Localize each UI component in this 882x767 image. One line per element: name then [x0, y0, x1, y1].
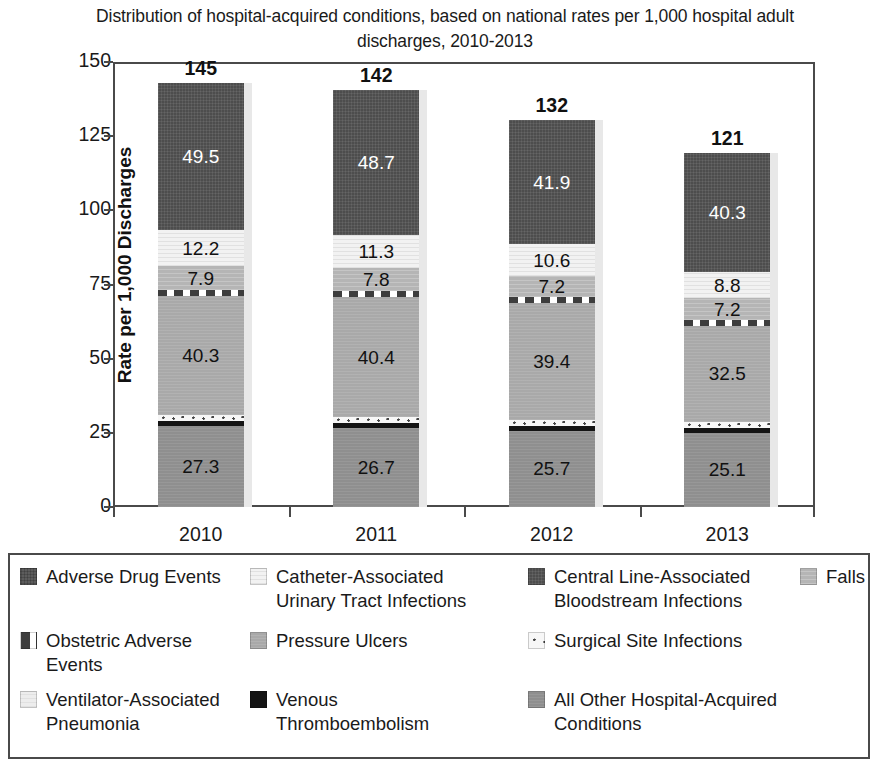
segment-value-label: 39.4 — [533, 352, 570, 371]
bar-segment-falls[interactable]: 7.2 — [684, 298, 770, 319]
bar-segment-obs[interactable] — [509, 297, 595, 303]
bar-segment-ssi[interactable] — [684, 422, 770, 428]
x-tick-label: 2010 — [141, 523, 261, 546]
bar-segment-other[interactable]: 25.7 — [509, 431, 595, 507]
y-tick-mark — [104, 61, 113, 63]
segment-value-label: 8.8 — [714, 276, 740, 295]
segment-value-label: 7.2 — [539, 277, 565, 296]
bar-segment-obs[interactable] — [158, 290, 244, 296]
segment-value-label: 12.2 — [182, 239, 219, 258]
legend-label: Catheter-Associated Urinary Tract Infect… — [276, 565, 466, 613]
y-tick-label: 75 — [47, 272, 111, 295]
bar-segment-pu[interactable]: 39.4 — [509, 303, 595, 420]
segment-value-label: 26.7 — [358, 458, 395, 477]
y-tick-label: 150 — [47, 49, 111, 72]
bar-segment-falls[interactable]: 7.8 — [333, 268, 419, 291]
bar-segment-falls[interactable]: 7.2 — [509, 276, 595, 297]
legend-swatch-vap-icon — [20, 691, 37, 708]
legend-label: Pressure Ulcers — [276, 629, 408, 653]
segment-value-label: 25.1 — [709, 460, 746, 479]
legend-label: Falls — [826, 565, 865, 589]
bar-segment-pu[interactable]: 40.4 — [333, 297, 419, 417]
bar-segment-ssi[interactable] — [333, 417, 419, 423]
legend-item-ade[interactable]: Adverse Drug Events — [20, 565, 221, 589]
bar-segment-pu[interactable]: 40.3 — [158, 296, 244, 416]
legend-item-obs[interactable]: Obstetric Adverse Events — [20, 629, 192, 677]
bar-segment-ssi[interactable] — [509, 420, 595, 426]
bar-segment-other[interactable]: 27.3 — [158, 426, 244, 507]
bar-segment-obs[interactable] — [333, 291, 419, 297]
bar-segment-ssi[interactable] — [158, 415, 244, 421]
bar-segment-cauti[interactable]: 10.6 — [509, 244, 595, 275]
bar-total-label: 121 — [684, 127, 770, 150]
bar-segment-cauti[interactable]: 12.2 — [158, 230, 244, 266]
y-tick-label: 100 — [47, 197, 111, 220]
y-axis-title: Rate per 1,000 Discharges — [114, 85, 136, 445]
segment-value-label: 11.3 — [358, 242, 394, 261]
y-tick-mark — [104, 358, 113, 360]
segment-value-label: 27.3 — [182, 457, 219, 476]
plot-area: Rate per 1,000 Discharges 02550751001251… — [113, 62, 815, 507]
bar-total-label: 142 — [333, 64, 419, 87]
legend-item-cauti[interactable]: Catheter-Associated Urinary Tract Infect… — [250, 565, 466, 613]
legend-swatch-pu-icon — [250, 632, 267, 649]
legend-swatch-ssi-icon — [528, 632, 545, 649]
legend-label: Adverse Drug Events — [46, 565, 221, 589]
y-tick-mark — [104, 284, 113, 286]
segment-value-label: 49.5 — [182, 147, 219, 166]
legend-swatch-other-icon — [528, 691, 545, 708]
segment-value-label: 7.2 — [714, 300, 740, 319]
segment-value-label: 10.6 — [533, 251, 570, 270]
legend-swatch-obs-icon — [20, 632, 37, 649]
bar-stack: 25.739.47.210.641.9 — [509, 120, 595, 507]
bar-segment-cauti[interactable]: 11.3 — [333, 235, 419, 269]
segment-value-label: 25.7 — [533, 459, 570, 478]
bar-segment-other[interactable]: 26.7 — [333, 428, 419, 507]
y-tick-mark — [104, 506, 113, 508]
bar-segment-pu[interactable]: 32.5 — [684, 326, 770, 422]
x-tick-mark — [813, 507, 815, 517]
bar-segment-vte[interactable] — [158, 421, 244, 426]
segment-value-label: 41.9 — [533, 173, 570, 192]
x-tick-mark — [113, 507, 115, 517]
chart-legend: Adverse Drug EventsCatheter-Associated U… — [8, 553, 870, 759]
bar-segment-clabsi[interactable]: 41.9 — [509, 120, 595, 244]
legend-item-vte[interactable]: Venous Thromboembolism — [250, 688, 429, 736]
x-tick-mark — [464, 507, 466, 517]
segment-value-label: 40.3 — [709, 203, 746, 222]
y-tick-label: 125 — [47, 123, 111, 146]
legend-label: All Other Hospital-Acquired Conditions — [554, 688, 777, 736]
legend-item-falls[interactable]: Falls — [800, 565, 865, 589]
y-tick-mark — [104, 135, 113, 137]
page-title: Distribution of hospital-acquired condit… — [60, 4, 830, 54]
y-tick-label: 25 — [47, 420, 111, 443]
legend-item-ssi[interactable]: Surgical Site Infections — [528, 629, 742, 653]
y-tick-label: 0 — [47, 494, 111, 517]
bar-segment-vte[interactable] — [333, 423, 419, 428]
bar-segment-vte[interactable] — [684, 428, 770, 432]
legend-item-vap[interactable]: Ventilator-Associated Pneumonia — [20, 688, 220, 736]
bar-segment-vte[interactable] — [509, 426, 595, 431]
legend-item-other[interactable]: All Other Hospital-Acquired Conditions — [528, 688, 777, 736]
bar-segment-other[interactable]: 25.1 — [684, 433, 770, 507]
legend-label: Central Line-Associated Bloodstream Infe… — [554, 565, 750, 613]
bar-total-label: 145 — [158, 57, 244, 80]
bar-segment-clabsi[interactable]: 48.7 — [333, 90, 419, 234]
bar-segment-falls[interactable]: 7.9 — [158, 266, 244, 289]
bar-stack: 27.340.37.912.249.5 — [158, 83, 244, 507]
x-tick-mark — [640, 507, 642, 517]
legend-item-pu[interactable]: Pressure Ulcers — [250, 629, 408, 653]
legend-item-clabsi[interactable]: Central Line-Associated Bloodstream Infe… — [528, 565, 750, 613]
legend-label: Venous Thromboembolism — [276, 688, 429, 736]
segment-value-label: 40.3 — [182, 346, 219, 365]
bar-segment-clabsi[interactable]: 49.5 — [158, 83, 244, 230]
bar-segment-clabsi[interactable]: 40.3 — [684, 153, 770, 273]
bar-segment-obs[interactable] — [684, 320, 770, 326]
x-tick-mark — [289, 507, 291, 517]
legend-label: Ventilator-Associated Pneumonia — [46, 688, 220, 736]
legend-swatch-ade-icon — [20, 568, 37, 585]
bar-segment-cauti[interactable]: 8.8 — [684, 272, 770, 298]
segment-value-label: 32.5 — [709, 364, 746, 383]
segment-value-label: 40.4 — [358, 348, 395, 367]
bar-stack: 25.132.57.28.840.3 — [684, 153, 770, 507]
